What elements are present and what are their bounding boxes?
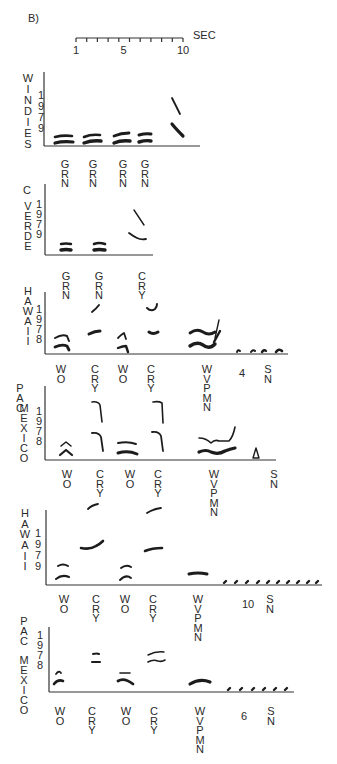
sound-unit-trace [235, 581, 237, 583]
time-scale-bar: 1510SEC [73, 29, 216, 56]
sound-unit-trace [199, 427, 235, 443]
unit-label: CRY [149, 593, 157, 624]
location-label: PACMEXICO [19, 615, 28, 716]
sound-unit-trace [224, 581, 226, 583]
sound-unit-trace [61, 442, 71, 446]
location-label: HAWAII [23, 285, 34, 347]
sound-unit-trace [152, 432, 163, 451]
unit-label: 4 [239, 367, 245, 379]
sound-unit-trace [118, 680, 133, 684]
sound-unit-trace [92, 433, 103, 451]
unit-letter: N [141, 177, 149, 189]
unit-label: CRY [88, 705, 96, 736]
location-label: HAWAII [20, 507, 31, 572]
location-letter: I [26, 335, 29, 347]
location-letter: C [20, 635, 28, 647]
unit-letter: N [62, 289, 70, 301]
sound-unit-trace [172, 124, 183, 136]
unit-letter: 6 [241, 710, 247, 722]
sound-unit-trace [307, 581, 309, 583]
sonogram-panel-pac-mexico-1978-b: PACMEXICO1978WOCRYWOCRYWVPMN6SN [19, 615, 294, 755]
year-digit: 9 [38, 122, 44, 134]
unit-label: WVPMN [202, 363, 213, 413]
location-letter: C [23, 184, 31, 196]
figure-canvas: B) 1510SEC WINDIES1979GRNGRNGRNGRNCVERDE… [0, 0, 337, 764]
unit-letter: O [57, 373, 66, 385]
unit-letter: Y [96, 487, 104, 499]
unit-letter: N [196, 743, 204, 755]
sound-unit-trace [252, 688, 254, 690]
year-digit: 9 [36, 228, 42, 240]
unit-label: GRN [119, 158, 128, 189]
unit-letter: N [266, 603, 274, 615]
spectrogram-traces [60, 402, 259, 458]
unit-letter: 10 [242, 598, 254, 610]
sound-unit-trace [93, 654, 99, 655]
scale-unit-label: SEC [193, 29, 216, 41]
unit-letter: N [119, 177, 127, 189]
year-digit: 8 [37, 659, 43, 671]
unit-label: WO [59, 593, 70, 615]
unit-label: CRY [96, 468, 104, 499]
year-label: 1978 [37, 629, 43, 671]
unit-label: WO [56, 363, 67, 385]
unit-letter: Y [91, 382, 99, 394]
unit-label: WO [120, 593, 131, 615]
sound-unit-trace [134, 210, 144, 225]
unit-label: CRY [154, 468, 162, 499]
unit-label: WO [62, 468, 73, 490]
unit-letter: N [194, 631, 202, 643]
unit-label: WO [55, 705, 66, 727]
scale-tick-label: 10 [177, 44, 189, 56]
unit-label: WVPMN [195, 705, 206, 755]
spectrogram-traces [61, 210, 146, 250]
sound-unit-trace [189, 573, 207, 574]
unit-letter: O [119, 373, 128, 385]
sound-unit-trace [84, 141, 101, 143]
unit-label: GRN [61, 158, 70, 189]
sound-unit-trace [120, 576, 131, 580]
unit-letter: Y [138, 289, 146, 301]
sound-unit-trace [56, 576, 69, 579]
location-letter: S [24, 138, 31, 150]
sound-unit-trace [153, 402, 163, 423]
unit-label: WO [125, 468, 136, 490]
sound-unit-trace [118, 442, 136, 444]
sound-unit-trace [129, 233, 146, 239]
unit-label: WVPMN [193, 593, 204, 643]
year-label: 1978 [36, 303, 42, 345]
unit-label: 10 [242, 598, 254, 610]
sound-unit-trace [94, 250, 105, 251]
unit-label: SN [267, 705, 275, 727]
unit-letter: Y [149, 612, 157, 624]
sound-unit-trace [262, 350, 266, 352]
unit-letter: Y [92, 612, 100, 624]
sound-unit-trace [297, 581, 299, 583]
unit-label: GRN [141, 158, 150, 189]
unit-label: CRY [91, 363, 99, 394]
sound-unit-trace [316, 581, 318, 583]
unit-labels: GRNGRNCRY [62, 270, 147, 301]
sonogram-panel-hawaii-1978: HAWAII1978WOCRYWOCRYWVPMN4SN [23, 285, 288, 413]
sonogram-panel-cape-verde-1979: CVERDE1979GRNGRNCRY [23, 184, 153, 301]
location-letter: E [24, 240, 31, 252]
spectrogram-traces [55, 98, 183, 143]
unit-letter: O [60, 603, 69, 615]
sound-unit-trace [145, 548, 162, 551]
year-label: 1979 [36, 198, 42, 240]
sound-unit-trace [190, 330, 215, 334]
unit-label: GRN [95, 270, 104, 301]
sound-unit-trace [246, 581, 248, 583]
sound-unit-trace [55, 142, 73, 143]
unit-label: GRN [62, 270, 71, 301]
unit-letter: N [203, 401, 211, 413]
unit-label: CRY [138, 270, 146, 301]
unit-letter: O [126, 478, 135, 490]
sonogram-panel-hawaii-1979: HAWAII1979WOCRYWOCRYWVPMN10SN [20, 504, 322, 643]
location-letter: O [20, 704, 29, 716]
sound-unit-trace [148, 652, 164, 655]
sound-unit-trace [61, 250, 71, 251]
unit-letter: N [270, 478, 278, 490]
sound-unit-trace [55, 335, 69, 341]
unit-labels: WOCRYWOCRYWVPMN10SN [59, 593, 274, 643]
